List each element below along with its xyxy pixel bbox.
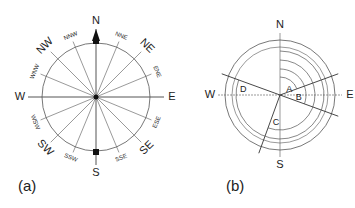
center-dot <box>94 95 99 100</box>
caption-b: (b) <box>226 177 244 194</box>
direction-label-e: E <box>168 90 175 102</box>
caption-a: (a) <box>18 177 36 194</box>
direction-label-w: W <box>15 90 26 102</box>
direction-label-wsw: WSW <box>30 114 42 131</box>
south-tail-icon <box>93 149 99 155</box>
cardinal-w: W <box>205 88 216 100</box>
angle-label-b: B <box>296 92 302 102</box>
compass-diagrams: NNNENEENEEESESESSESSSWSWWSWWWNWNWNNW(a) … <box>0 0 355 208</box>
direction-label-nnw: NNW <box>63 30 79 41</box>
direction-label-nw: NW <box>34 34 56 56</box>
bearing-line-d <box>222 74 280 95</box>
angle-label-c: C <box>273 117 280 127</box>
direction-label-nne: NNE <box>114 30 128 40</box>
cardinal-e: E <box>346 88 353 100</box>
cardinal-n: N <box>276 18 284 30</box>
angle-label-a: A <box>286 84 292 94</box>
figure-a-compass-rose: NNNENEENEEESESESSESSSWSWWSWWWNWNWNNW(a) <box>15 14 176 194</box>
direction-label-n: N <box>92 14 100 26</box>
north-arrow-icon <box>92 29 100 41</box>
figure-b-bearing-angles: NESWABCD(b) <box>205 18 354 194</box>
bearing-line-b <box>280 95 338 116</box>
direction-label-s: S <box>92 166 99 178</box>
direction-label-ese: ESE <box>152 115 162 128</box>
cardinal-s: S <box>276 158 283 170</box>
direction-label-wnw: WNW <box>29 63 41 80</box>
angle-label-d: D <box>240 84 247 94</box>
direction-label-sw: SW <box>35 137 56 158</box>
direction-label-ene: ENE <box>152 65 162 79</box>
direction-label-ssw: SSW <box>63 152 78 163</box>
north-tick <box>93 41 99 44</box>
angle-arc-b <box>280 69 306 104</box>
direction-label-sse: SSE <box>114 153 127 163</box>
